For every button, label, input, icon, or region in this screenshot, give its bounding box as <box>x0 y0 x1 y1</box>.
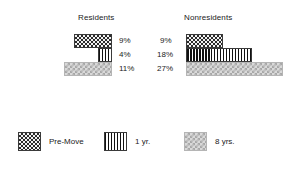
legend-label-8yrs: 8 yrs. <box>215 137 235 146</box>
nonresidents-premove-row: 9% <box>0 34 291 48</box>
group-title-nonresidents: Nonresidents <box>184 13 232 22</box>
legend-label-1yr: 1 yr. <box>135 137 150 146</box>
legend-label-premove: Pre-Move <box>49 137 84 146</box>
legend-swatch-8yrs-icon <box>184 132 207 151</box>
nonresidents-8yrs-bar <box>186 62 283 76</box>
legend-swatch-premove-icon <box>18 132 41 151</box>
chart-legend: Pre-Move 1 yr. 8 yrs. <box>0 132 291 162</box>
nonresidents-8yrs-value: 27% <box>157 64 173 73</box>
legend-swatch-1yr-icon <box>104 132 127 151</box>
nonresidents-premove-value: 9% <box>160 36 172 45</box>
nonresidents-1yr-row: 18% <box>0 48 291 62</box>
group-title-residents: Residents <box>78 13 114 22</box>
nonresidents-premove-bar <box>186 34 223 48</box>
bar-chart: Residents Nonresidents 9% 4% 11% 9% 18% … <box>0 0 291 173</box>
nonresidents-8yrs-row: 27% <box>0 62 291 76</box>
nonresidents-1yr-bar <box>186 48 252 62</box>
nonresidents-1yr-value: 18% <box>157 50 173 59</box>
